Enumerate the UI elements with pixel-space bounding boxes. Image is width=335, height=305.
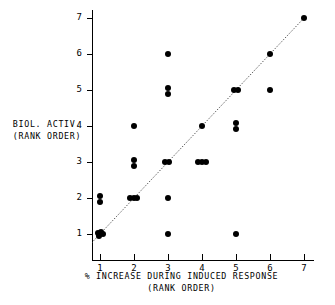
y-tick-5 bbox=[87, 90, 93, 91]
x-axis-label: % INCREASE DURING INDUCED RESPONSE (RANK… bbox=[0, 270, 335, 294]
data-point bbox=[233, 126, 239, 132]
plot-area: 1234567 1234567 bbox=[100, 18, 304, 234]
x-tick-label-6: 6 bbox=[260, 263, 280, 273]
y-tick-label-7: 7 bbox=[68, 12, 82, 22]
x-tick-5 bbox=[236, 254, 237, 260]
y-tick-label-1: 1 bbox=[68, 228, 82, 238]
data-point bbox=[134, 195, 140, 201]
y-axis-label-line2: (RANK ORDER) bbox=[13, 131, 81, 141]
x-tick-label-7: 7 bbox=[294, 263, 314, 273]
data-point bbox=[96, 233, 102, 239]
data-point bbox=[301, 15, 307, 21]
y-tick-6 bbox=[87, 54, 93, 55]
data-point bbox=[199, 123, 205, 129]
x-tick-label-1: 1 bbox=[90, 263, 110, 273]
x-tick-label-5: 5 bbox=[226, 263, 246, 273]
data-point bbox=[165, 195, 171, 201]
x-tick-7 bbox=[304, 254, 305, 260]
data-point bbox=[97, 193, 103, 199]
y-tick-3 bbox=[87, 162, 93, 163]
scatter-plot-figure: BIOL. ACTIV. (RANK ORDER) % INCREASE DUR… bbox=[0, 0, 335, 305]
data-point bbox=[131, 123, 137, 129]
y-tick-label-2: 2 bbox=[68, 192, 82, 202]
x-tick-6 bbox=[270, 254, 271, 260]
x-tick-label-3: 3 bbox=[158, 263, 178, 273]
x-tick-4 bbox=[202, 254, 203, 260]
y-tick-label-3: 3 bbox=[68, 156, 82, 166]
x-tick-3 bbox=[168, 254, 169, 260]
y-tick-label-4: 4 bbox=[68, 120, 82, 130]
identity-reference-line bbox=[92, 10, 314, 260]
y-tick-label-6: 6 bbox=[68, 48, 82, 58]
data-point bbox=[267, 87, 273, 93]
data-point bbox=[97, 199, 103, 205]
data-point bbox=[235, 87, 241, 93]
data-point bbox=[165, 91, 171, 97]
x-tick-label-4: 4 bbox=[192, 263, 212, 273]
y-tick-1 bbox=[87, 234, 93, 235]
x-tick-label-2: 2 bbox=[124, 263, 144, 273]
data-point bbox=[233, 231, 239, 237]
y-tick-4 bbox=[87, 126, 93, 127]
x-tick-1 bbox=[100, 254, 101, 260]
data-point bbox=[166, 159, 172, 165]
y-tick-label-5: 5 bbox=[68, 84, 82, 94]
y-axis-line bbox=[92, 10, 93, 260]
x-axis-label-line2: (RANK ORDER) bbox=[0, 282, 335, 294]
x-axis-line bbox=[92, 260, 314, 261]
data-point bbox=[203, 159, 209, 165]
y-tick-2 bbox=[87, 198, 93, 199]
data-point bbox=[165, 231, 171, 237]
data-point bbox=[165, 51, 171, 57]
data-point bbox=[131, 157, 137, 163]
y-tick-7 bbox=[87, 18, 93, 19]
data-point bbox=[267, 51, 273, 57]
x-tick-2 bbox=[134, 254, 135, 260]
data-point bbox=[165, 85, 171, 91]
data-point bbox=[131, 163, 137, 169]
